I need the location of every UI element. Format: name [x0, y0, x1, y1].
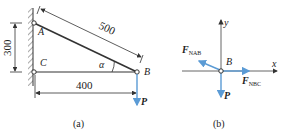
dimension-cb-label: 400: [76, 79, 93, 91]
force-bc-label: FNBC: [241, 75, 261, 87]
diagram-canvas: 500 300 400 A C B α P (a) x y B: [0, 0, 286, 137]
pin-a: [32, 21, 36, 25]
angle-label: α: [99, 59, 105, 70]
load-label-b: P: [224, 90, 231, 101]
caption-b: (b): [213, 118, 225, 130]
dimension-ac-label: 300: [1, 39, 13, 56]
force-ab-label: FNAB: [181, 44, 201, 56]
point-c-label: C: [40, 57, 47, 68]
node-b: [219, 69, 223, 73]
figure-b: x y B FNAB FNBC P (b): [181, 17, 277, 130]
x-axis-label: x: [271, 58, 277, 69]
load-label: P: [141, 96, 148, 107]
y-axis-label: y: [223, 17, 229, 28]
pin-b: [135, 70, 139, 74]
point-a-label: A: [37, 26, 45, 37]
figure-a: 500 300 400 A C B α P (a): [1, 6, 150, 130]
angle-arc: [112, 61, 114, 72]
caption-a: (a): [73, 118, 84, 130]
wall-hatch: [28, 8, 33, 86]
force-ab-arrow: [199, 61, 220, 70]
node-b-label: B: [226, 56, 232, 67]
dimension-ab-label: 500: [97, 19, 118, 37]
point-b-label: B: [144, 66, 150, 77]
pin-c: [32, 70, 36, 74]
